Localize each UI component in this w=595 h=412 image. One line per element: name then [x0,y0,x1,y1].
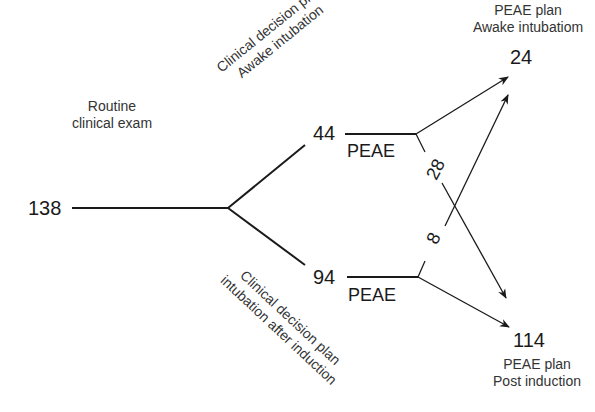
awake-peae-label: PEAE [347,141,395,162]
outcome-post-label-line1: PEAE plan [477,356,595,373]
root-label-line2: clinical exam [62,115,162,132]
root-label: Routine clinical exam [62,98,162,132]
outcome-post-label: PEAE plan Post induction [477,356,595,390]
awake-branch-count: 44 [313,122,335,145]
root-count: 138 [28,197,61,220]
outcome-awake-label: PEAE plan Awake intubatiom [458,2,595,36]
outcome-awake-count: 24 [510,46,532,69]
outcome-post-label-line2: Post induction [477,373,595,390]
outcome-awake-label-line1: PEAE plan [458,2,595,19]
outcome-post-count: 114 [513,329,545,352]
outcome-awake-label-line2: Awake intubatiom [458,19,595,36]
induction-peae-label: PEAE [348,285,396,306]
induction-branch-count: 94 [313,266,335,289]
root-label-line1: Routine [62,98,162,115]
